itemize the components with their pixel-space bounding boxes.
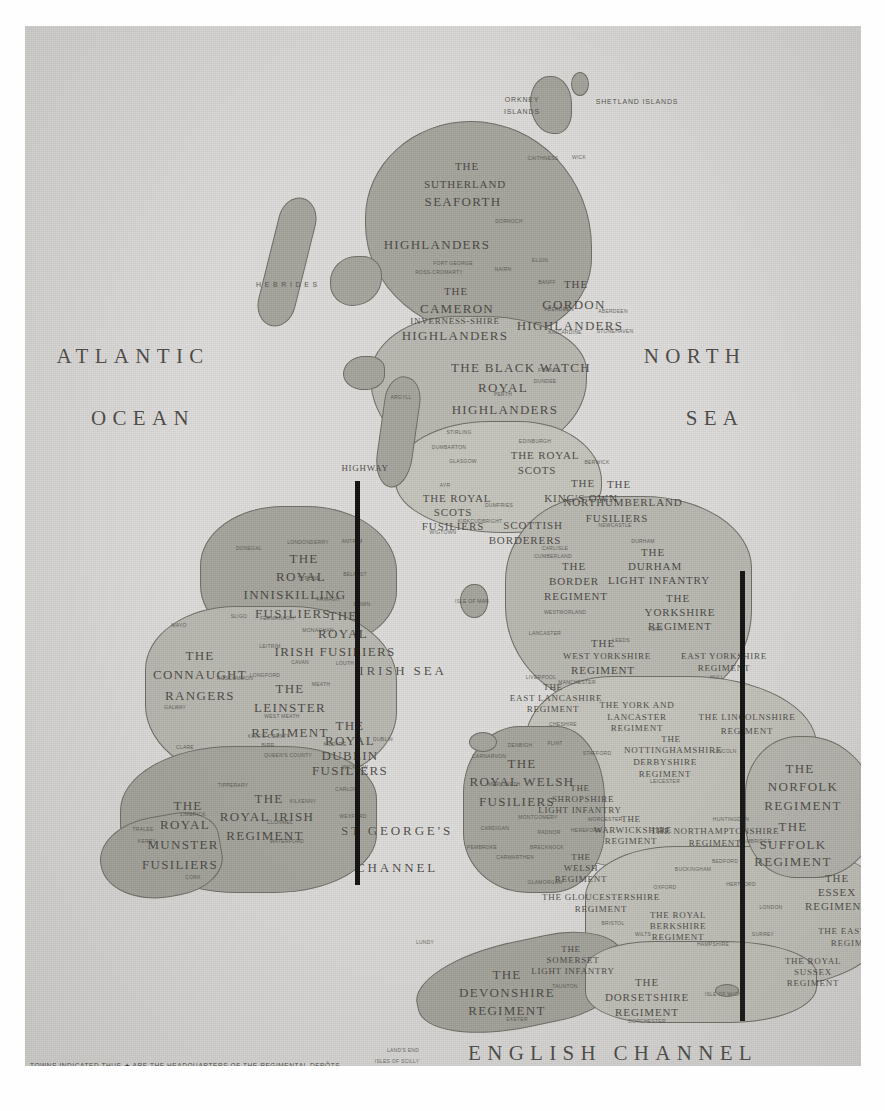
regiment-label: REGIMENT <box>721 726 773 736</box>
regiment-label: THE <box>621 814 641 824</box>
county-label: FORFAR <box>538 367 560 373</box>
county-label: PEMBROKE <box>467 844 497 850</box>
county-label: BERWICK <box>585 459 610 465</box>
county-label: DUMFRIES <box>485 502 513 508</box>
county-label: GLASGOW <box>449 458 477 464</box>
regiment-label: THE <box>492 967 521 983</box>
county-label: FORT GEORGE <box>433 260 473 266</box>
regiment-label: REGIMENT <box>555 874 607 884</box>
county-label: CARMARTHEN <box>496 854 534 860</box>
county-label: STONEHAVEN <box>597 328 634 334</box>
regiment-label: THE <box>328 608 357 624</box>
county-label: AYR <box>440 482 451 488</box>
regiment-label: THE ROYAL <box>650 910 706 920</box>
island-label: ISLANDS <box>504 108 540 115</box>
regiment-label: NORTHUMBERLAND <box>563 496 682 508</box>
county-label: LIMERICK <box>180 811 206 817</box>
regiment-label: WELSH <box>564 863 599 873</box>
county-label: WESTMORLAND <box>544 609 586 615</box>
county-label: FERMANAGH <box>260 615 294 621</box>
county-label: DUBLIN <box>373 736 393 742</box>
regiment-label: THE <box>564 278 588 290</box>
county-label: ISLE OF MAN <box>455 598 489 604</box>
regiment-label: CAMERON <box>420 301 494 317</box>
regiment-label: REGIMENT <box>611 723 663 733</box>
regiment-label: THE YORK AND <box>600 700 675 710</box>
regiment-label: BORDER <box>549 575 599 587</box>
regiment-label: SOMERSET <box>547 955 600 965</box>
county-label: TAUNTON <box>552 983 577 989</box>
regiment-label: THE GLOUCESTERSHIRE <box>542 892 660 902</box>
county-label: BRECKNOCK <box>530 844 564 850</box>
regiment-label: SUTHERLAND <box>424 178 506 190</box>
regiment-label: REGIMENT <box>575 904 627 914</box>
county-label: BEDFORD <box>712 858 738 864</box>
county-label: ABERDEEN <box>544 306 574 312</box>
county-label: LANCASTER <box>529 630 561 636</box>
county-label: STIRLING <box>446 429 471 435</box>
county-label: RADNOR <box>537 829 560 835</box>
regiment-label: REGIMENT <box>689 838 741 848</box>
county-label: SLIGO <box>231 613 248 619</box>
regiment-label: WEST YORKSHIRE <box>563 651 651 661</box>
county-label: LAND'S END <box>387 1047 419 1053</box>
county-label: CAVAN <box>291 659 309 665</box>
regiment-label: THE <box>561 944 581 954</box>
county-label: WIGTOWN <box>430 529 457 535</box>
county-label: CHESHIRE <box>549 721 577 727</box>
regiment-label: THE <box>562 560 586 572</box>
regiment-label: DERBYSHIRE <box>633 757 697 767</box>
county-label: LOUTH <box>336 660 354 666</box>
county-label: LIVERPOOL <box>526 674 557 680</box>
regiment-label: SHROPSHIRE <box>552 794 614 804</box>
regiment-label: SEAFORTH <box>425 194 502 210</box>
county-label: BUCKINGHAM <box>675 866 711 872</box>
county-label: WATERFORD <box>270 838 304 844</box>
regiment-label: REGIMENT <box>805 900 861 912</box>
regiment-label: HIGHLANDERS <box>452 402 559 418</box>
county-label: LEEDS <box>612 637 630 643</box>
sea-label: NORTH <box>644 344 747 369</box>
county-label: KILDARE <box>323 741 346 747</box>
regiment-label: DEVONSHIRE <box>459 985 555 1001</box>
county-label: DORCHESTER <box>628 1018 666 1024</box>
county-label: WEST MEATH <box>264 713 299 719</box>
regiment-label: THE <box>641 546 665 558</box>
county-label: ROSCOMMON <box>217 675 253 681</box>
sea-label: ATLANTIC <box>56 344 209 369</box>
regiment-label: THE NORTHAMPTONSHIRE <box>651 826 779 836</box>
regiment-label: ROYAL <box>160 817 210 833</box>
sea-label: CHANNEL <box>356 860 438 876</box>
regiment-label: THE ROYAL <box>511 449 580 461</box>
regiment-label: DORSETSHIRE <box>605 991 689 1003</box>
county-label: ARGYLL <box>390 394 411 400</box>
county-label: WILTS <box>635 931 651 937</box>
scan-artifact-bar <box>740 571 745 1021</box>
regiment-label: REGIMENT <box>571 664 635 676</box>
regiment-label: LIGHT INFANTRY <box>608 574 710 586</box>
sea-label: SEA <box>686 406 745 431</box>
regiment-label: ESSEX <box>818 886 856 898</box>
county-label: GALWAY <box>164 704 186 710</box>
county-label: HAMPSHIRE <box>697 941 729 947</box>
county-label: KINCARDINE <box>548 329 581 335</box>
land-mull <box>343 356 385 390</box>
county-label: YORK <box>647 626 662 632</box>
map-plate: ATLANTICOCEANNORTHSEAIRISH SEAST GEORGE'… <box>25 26 861 1066</box>
county-label: CARLISLE <box>542 545 568 551</box>
regiment-label: SCOTS <box>434 506 473 518</box>
county-label: TIPPERARY <box>218 782 249 788</box>
regiment-label: THE <box>661 734 681 744</box>
regiment-label: HIGHWAY <box>341 463 388 473</box>
regiment-label: REGIMENT <box>544 590 608 602</box>
county-label: KING'S COUNTY <box>248 733 290 739</box>
county-label: CAITHNESS <box>528 155 559 161</box>
sea-label: OCEAN <box>91 406 195 431</box>
regiment-label: THE EAST KENT <box>818 926 861 936</box>
county-label: DURHAM <box>631 538 654 544</box>
county-label: KERRY <box>138 838 156 844</box>
regiment-label: REGIMENT <box>605 836 657 846</box>
county-label: EDINBURGH <box>519 438 551 444</box>
land-orkney-isle <box>571 72 589 96</box>
county-label: NAIRN <box>495 266 512 272</box>
